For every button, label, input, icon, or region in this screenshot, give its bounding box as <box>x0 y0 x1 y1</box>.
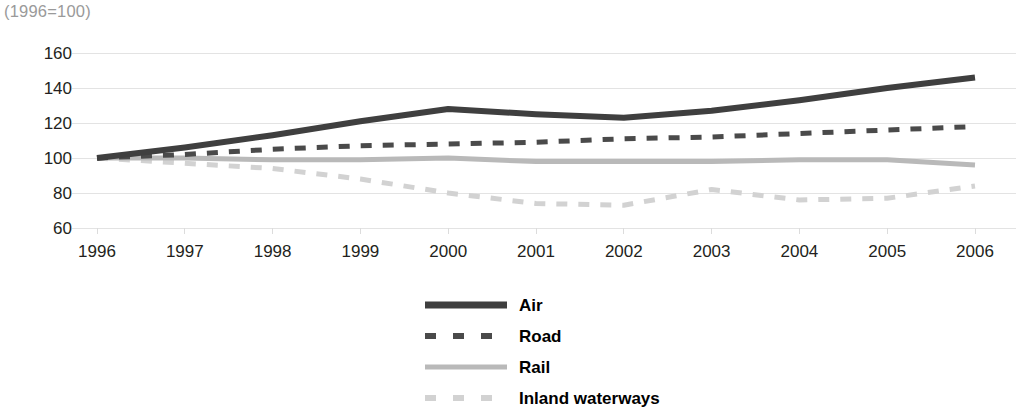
legend-item-road[interactable]: Road <box>425 323 562 349</box>
series-line-inland-waterways <box>97 158 975 205</box>
legend-label: Inland waterways <box>519 390 660 407</box>
legend-swatch <box>425 360 507 374</box>
x-axis-label: 2002 <box>605 243 643 260</box>
x-axis-label: 2000 <box>429 243 467 260</box>
transport-index-line-chart: (1996=100) 1601401201008060 199619971998… <box>0 0 1022 413</box>
legend-swatch <box>425 391 507 405</box>
x-axis-label: 1997 <box>166 243 204 260</box>
plot-area <box>0 40 1022 240</box>
chart-legend: AirRoadRailInland waterways <box>0 292 1022 413</box>
legend-label: Rail <box>519 359 550 376</box>
x-axis-label: 2003 <box>693 243 731 260</box>
x-axis-label: 2001 <box>517 243 555 260</box>
legend-item-inland-waterways[interactable]: Inland waterways <box>425 385 660 411</box>
x-axis-label: 2004 <box>780 243 818 260</box>
legend-label: Road <box>519 328 562 345</box>
series-line-rail <box>97 158 975 165</box>
x-axis-label: 2006 <box>956 243 994 260</box>
legend-label: Air <box>519 297 543 314</box>
x-axis-label: 2005 <box>868 243 906 260</box>
x-axis-label: 1996 <box>78 243 116 260</box>
plot-svg <box>0 40 1022 240</box>
legend-swatch <box>425 298 507 312</box>
x-axis-label: 1998 <box>254 243 292 260</box>
legend-item-air[interactable]: Air <box>425 292 543 318</box>
legend-item-rail[interactable]: Rail <box>425 354 550 380</box>
legend-swatch <box>425 329 507 343</box>
x-axis-label: 1999 <box>341 243 379 260</box>
x-axis-tick-labels: 1996199719981999200020012002200320042005… <box>0 243 1022 269</box>
chart-subtitle: (1996=100) <box>4 2 91 21</box>
series-line-air <box>97 78 975 159</box>
